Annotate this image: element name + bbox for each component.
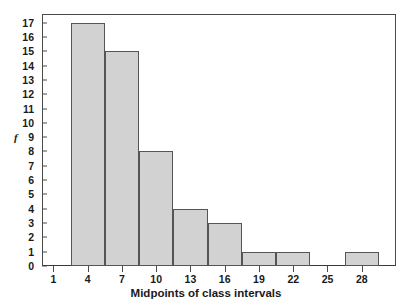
x-tick-label: 13	[185, 274, 197, 285]
x-tick-label: 16	[219, 274, 231, 285]
y-tick-mark	[42, 180, 47, 181]
x-tick-label: 7	[119, 274, 125, 285]
y-tick-label: 7	[28, 161, 34, 172]
y-tick-label: 3	[28, 218, 34, 229]
y-tick-label: 16	[22, 32, 34, 43]
x-tick-mark	[156, 266, 157, 272]
y-tick-mark	[42, 266, 47, 267]
x-tick-label: 22	[287, 274, 299, 285]
y-tick-label: 2	[28, 232, 34, 243]
y-tick-label: 13	[22, 75, 34, 86]
x-tick-mark	[327, 266, 328, 272]
x-tick-mark	[190, 266, 191, 272]
y-tick-mark	[42, 237, 47, 238]
y-tick-label: 4	[28, 203, 34, 214]
y-tick-label: 9	[28, 132, 34, 143]
y-tick-mark	[42, 94, 47, 95]
y-tick-mark	[42, 108, 47, 109]
x-tick-label: 4	[85, 274, 91, 285]
y-tick-label: 12	[22, 89, 34, 100]
x-tick-mark	[88, 266, 89, 272]
y-tick-label: 17	[22, 17, 34, 28]
y-tick-mark	[42, 65, 47, 66]
y-tick-label: 15	[22, 46, 34, 57]
y-tick-mark	[42, 194, 47, 195]
plot-frame	[42, 14, 396, 266]
y-tick-mark	[42, 79, 47, 80]
y-tick-mark	[42, 36, 47, 37]
y-axis: 01234567891011121314151617	[0, 0, 42, 306]
y-tick-mark	[42, 165, 47, 166]
y-axis-title: f	[14, 131, 18, 143]
y-tick-mark	[42, 51, 47, 52]
y-tick-mark	[42, 22, 47, 23]
x-tick-label: 28	[356, 274, 368, 285]
y-tick-mark	[42, 151, 47, 152]
y-tick-label: 1	[28, 246, 34, 257]
x-tick-mark	[362, 266, 363, 272]
x-tick-mark	[225, 266, 226, 272]
y-tick-label: 0	[28, 261, 34, 272]
x-tick-mark	[53, 266, 54, 272]
y-tick-label: 8	[28, 146, 34, 157]
y-tick-mark	[42, 251, 47, 252]
y-tick-label: 11	[23, 103, 34, 114]
x-tick-label: 25	[322, 274, 334, 285]
x-tick-mark	[259, 266, 260, 272]
y-tick-mark	[42, 137, 47, 138]
y-tick-mark	[42, 223, 47, 224]
y-tick-mark	[42, 208, 47, 209]
x-tick-mark	[293, 266, 294, 272]
x-tick-mark	[122, 266, 123, 272]
x-tick-label: 19	[253, 274, 265, 285]
x-tick-label: 10	[150, 274, 162, 285]
x-tick-label: 1	[50, 274, 56, 285]
y-tick-label: 10	[22, 118, 34, 129]
x-axis-title: Midpoints of class intervals	[0, 288, 412, 300]
y-tick-mark	[42, 122, 47, 123]
y-tick-label: 5	[28, 189, 34, 200]
y-tick-label: 6	[28, 175, 34, 186]
y-tick-label: 14	[22, 60, 34, 71]
histogram-figure: 01234567891011121314151617 Midpoints of …	[0, 0, 412, 306]
